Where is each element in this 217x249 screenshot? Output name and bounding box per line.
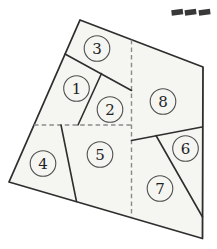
region-5-label: 5: [95, 146, 105, 164]
bold-dash-mark-2: [185, 9, 197, 16]
diagram-canvas: 12345678: [0, 0, 217, 249]
region-7-label: 7: [155, 180, 165, 198]
partition-diagram: 12345678: [0, 0, 217, 249]
bold-dash-mark-1: [171, 9, 183, 16]
region-4-label: 4: [38, 155, 48, 173]
bold-dash-marks: [171, 9, 210, 16]
region-2-label: 2: [105, 101, 115, 119]
bold-dash-mark-3: [199, 9, 211, 16]
region-8-label: 8: [158, 93, 168, 111]
region-1-label: 1: [72, 80, 82, 98]
region-3-label: 3: [92, 40, 102, 58]
region-6-label: 6: [181, 140, 191, 158]
